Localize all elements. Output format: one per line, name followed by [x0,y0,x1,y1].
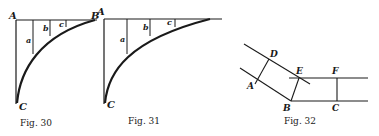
label-C: C [19,101,27,112]
figure-30 [16,20,97,104]
label-A: A [246,81,254,91]
label-a: a [26,35,31,45]
label-c: c [167,17,172,27]
label-b: b [143,22,149,32]
caption-fig-31: Fig. 31 [128,116,160,126]
figures-canvas: A B C a b c Fig. 30 A C a b c Fig. 31 D … [0,0,379,136]
label-D: D [269,49,278,59]
segment-eb [291,78,299,101]
label-F: F [331,66,339,76]
curve [105,19,210,103]
figure-31 [104,19,222,104]
label-A: A [96,6,105,17]
caption-fig-30: Fig. 30 [20,118,52,128]
label-C: C [107,99,115,110]
figure-32 [240,44,368,101]
label-b: b [43,23,49,33]
caption-fig-32: Fig. 32 [284,116,316,126]
segment-da [255,59,269,84]
curve-cb [17,20,95,103]
label-E: E [295,66,303,76]
label-c: c [59,19,64,29]
label-a: a [120,34,125,44]
label-B: B [282,103,291,113]
label-A: A [8,10,17,21]
label-C: C [332,103,340,113]
